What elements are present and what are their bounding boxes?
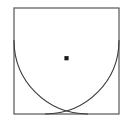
- figure-background: [0, 0, 131, 123]
- arc-intersection-point: [64, 56, 68, 60]
- geometry-canvas: [0, 0, 131, 123]
- geometry-figure: [0, 0, 131, 123]
